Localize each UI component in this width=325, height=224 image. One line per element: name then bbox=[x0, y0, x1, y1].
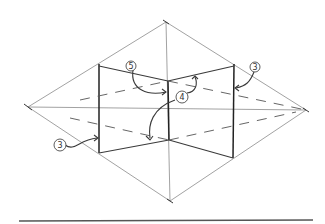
hidden-line-upper-right bbox=[168, 81, 306, 110]
center-vertical-edge bbox=[168, 81, 169, 140]
bottom-rule bbox=[19, 220, 313, 221]
label-3-left: 3 bbox=[57, 141, 62, 150]
perspective-diagram: 5 4 3 3 bbox=[0, 0, 325, 224]
label-5: 5 bbox=[128, 62, 133, 71]
hidden-line-lower-left bbox=[70, 118, 169, 140]
callout-5: 5 bbox=[126, 61, 166, 95]
label-4: 4 bbox=[179, 93, 184, 102]
horizon-line bbox=[28, 107, 306, 110]
callout-3-right: 3 bbox=[235, 62, 260, 91]
hidden-line-upper-left bbox=[80, 81, 168, 100]
bottom-edge-right bbox=[169, 140, 233, 158]
label-3-right: 3 bbox=[252, 63, 257, 72]
right-vertical-edge bbox=[233, 64, 234, 158]
top-edge-right bbox=[168, 66, 234, 81]
bottom-edge-left bbox=[99, 140, 169, 153]
